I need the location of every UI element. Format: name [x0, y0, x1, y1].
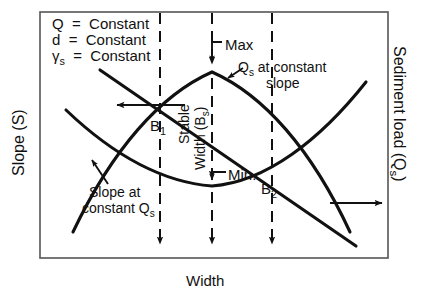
stable-width-diagram: Q = Constant d = Constant γs = Constant … [0, 0, 430, 302]
max-label: Max [225, 36, 253, 54]
min-label: Min. [228, 166, 256, 184]
min-leader [212, 172, 226, 180]
x-axis-label: Width [186, 272, 224, 290]
stable-width-label-line2: Width (Bs) [192, 107, 212, 170]
b1-label: B1 [150, 117, 166, 138]
max-leader [212, 42, 222, 62]
slope-curve-label-line1: Slope at [89, 184, 140, 201]
condition-specific-weight: γs = Constant [52, 47, 150, 68]
sediment-curve-label-line2: slope [266, 75, 299, 92]
stable-width-label-line1: Stable [176, 104, 193, 144]
y-axis-right-label: Sediment load (Qs) [386, 46, 408, 182]
b2-label: B2 [261, 180, 277, 201]
y-axis-left-label: Slope (S) [10, 109, 29, 176]
curve-slope [66, 82, 366, 186]
slope-curve-label-line2: constant Qs [82, 200, 155, 220]
